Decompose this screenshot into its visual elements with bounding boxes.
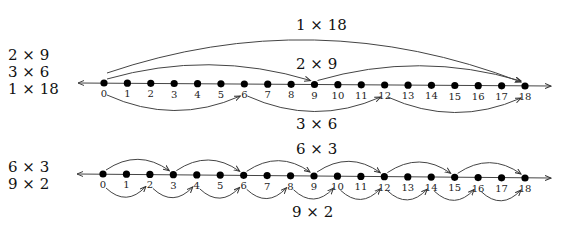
bottom-tick-2: 2 (147, 179, 153, 190)
top-tick-8: 8 (288, 89, 294, 100)
bottom-tick-6: 6 (240, 180, 246, 191)
arc-label-9x2: 9 × 2 (292, 203, 333, 221)
bottom-tick-15: 15 (448, 182, 461, 193)
top-point-4 (194, 80, 201, 87)
arc-6x3-4 (387, 162, 450, 173)
top-tick-3: 3 (171, 89, 177, 100)
top-point-14 (428, 82, 435, 89)
arc-6x3-0 (106, 159, 169, 170)
bottom-point-5 (217, 172, 224, 179)
bottom-tick-18: 18 (519, 183, 532, 194)
top-tick-14: 14 (425, 90, 438, 101)
top-tick-18: 18 (519, 91, 532, 102)
bottom-tick-10: 10 (331, 181, 344, 192)
top-tick-9: 9 (311, 90, 317, 101)
arc-6x3-3 (317, 161, 380, 172)
side-label-3x6: 3 × 6 (8, 63, 49, 81)
bottom-point-2 (146, 171, 153, 178)
bottom-tick-5: 5 (217, 180, 223, 191)
side-label-1x18: 1 × 18 (8, 80, 59, 98)
bottom-point-7 (264, 172, 271, 179)
top-point-16 (475, 82, 482, 89)
bottom-point-9 (310, 172, 317, 179)
bottom-tick-13: 13 (401, 182, 414, 193)
top-point-2 (147, 80, 154, 87)
bottom-tick-4: 4 (194, 180, 200, 191)
bottom-point-18 (521, 174, 528, 181)
bottom-tick-16: 16 (472, 183, 485, 194)
bottom-tick-7: 7 (264, 181, 270, 192)
bottom-point-4 (193, 171, 200, 178)
top-point-5 (217, 80, 224, 87)
top-tick-4: 4 (194, 89, 200, 100)
top-point-9 (311, 81, 318, 88)
bottom-tick-8: 8 (287, 181, 293, 192)
top-tick-12: 12 (378, 90, 391, 101)
bottom-point-0 (99, 170, 106, 177)
bottom-tick-1: 1 (123, 179, 129, 190)
bottom-point-10 (334, 173, 341, 180)
top-tick-16: 16 (472, 91, 485, 102)
arc-label-1x18: 1 × 18 (296, 16, 347, 34)
side-label-6x3: 6 × 3 (8, 158, 49, 176)
arc-6x3-2 (247, 161, 310, 172)
top-tick-7: 7 (265, 89, 271, 100)
top-point-15 (451, 82, 458, 89)
bottom-point-15 (451, 174, 458, 181)
top-point-13 (404, 82, 411, 89)
bottom-tick-17: 17 (495, 183, 508, 194)
top-point-7 (264, 81, 271, 88)
arc-label-6x3: 6 × 3 (296, 140, 337, 158)
top-tick-1: 1 (124, 88, 130, 99)
number-line-diagram: 2 × 9 3 × 6 1 × 18 1 × 18 2 × 9 3 × 6 6 … (0, 0, 571, 226)
arc-2x9-b (318, 66, 522, 81)
top-point-6 (241, 80, 248, 87)
bottom-point-1 (123, 171, 130, 178)
bottom-tick-0: 0 (100, 179, 106, 190)
bottom-tick-14: 14 (425, 182, 438, 193)
bottom-point-13 (404, 173, 411, 180)
bottom-tick-3: 3 (170, 180, 176, 191)
top-tick-10: 10 (332, 90, 345, 101)
top-point-3 (171, 80, 178, 87)
top-point-11 (358, 81, 365, 88)
bottom-point-11 (357, 173, 364, 180)
top-point-1 (124, 80, 131, 87)
top-point-12 (381, 81, 388, 88)
top-point-10 (334, 81, 341, 88)
top-tick-5: 5 (218, 89, 224, 100)
arc-2x9-a (107, 65, 311, 81)
bottom-point-17 (498, 174, 505, 181)
top-point-17 (498, 82, 505, 89)
top-tick-6: 6 (241, 89, 247, 100)
top-point-18 (521, 82, 528, 89)
bottom-tick-12: 12 (378, 182, 391, 193)
bottom-point-8 (287, 172, 294, 179)
bottom-point-3 (170, 171, 177, 178)
bottom-tick-11: 11 (355, 181, 368, 192)
bottom-point-14 (428, 174, 435, 181)
top-tick-13: 13 (402, 90, 415, 101)
top-tick-2: 2 (148, 88, 154, 99)
bottom-tick-9: 9 (311, 181, 317, 192)
top-tick-17: 17 (495, 91, 508, 102)
top-point-8 (288, 81, 295, 88)
side-label-9x2: 9 × 2 (8, 175, 49, 193)
bottom-point-6 (240, 172, 247, 179)
top-tick-0: 0 (101, 88, 107, 99)
bottom-point-16 (475, 174, 482, 181)
top-point-0 (100, 79, 107, 86)
side-label-2x9: 2 × 9 (8, 46, 49, 64)
arc-6x3-1 (176, 160, 239, 171)
arc-6x3-5 (458, 163, 521, 174)
top-tick-15: 15 (448, 91, 461, 102)
arc-label-3x6: 3 × 6 (296, 115, 337, 133)
arc-label-2x9: 2 × 9 (296, 55, 337, 73)
bottom-point-12 (381, 173, 388, 180)
top-tick-11: 11 (355, 90, 368, 101)
